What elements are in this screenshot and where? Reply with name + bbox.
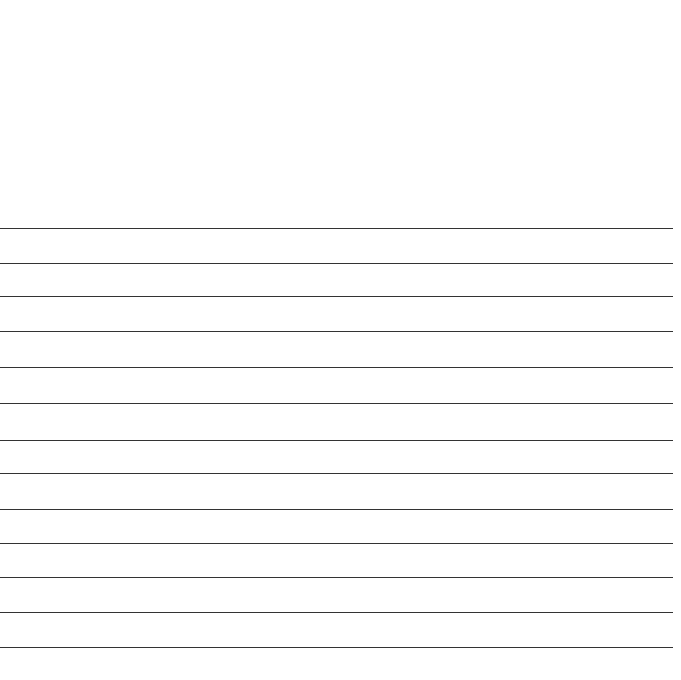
rule-line	[0, 403, 673, 404]
rule-line	[0, 509, 673, 510]
rule-line	[0, 331, 673, 332]
ruled-paper-page	[0, 0, 681, 680]
rule-line	[0, 543, 673, 544]
rule-line	[0, 228, 673, 229]
rule-line	[0, 440, 673, 441]
blank-footer-area	[0, 650, 681, 680]
rule-line	[0, 577, 673, 578]
rule-line	[0, 612, 673, 613]
rule-line	[0, 473, 673, 474]
ruled-writing-area[interactable]	[0, 0, 681, 680]
rule-line	[0, 263, 673, 264]
rule-line	[0, 367, 673, 368]
rule-line	[0, 647, 673, 648]
rule-line	[0, 296, 673, 297]
